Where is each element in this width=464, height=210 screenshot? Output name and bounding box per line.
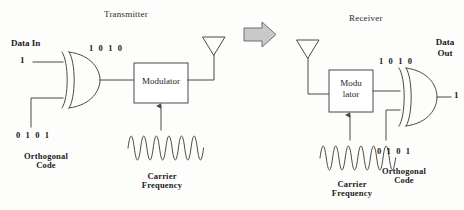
demodulator-label-line2: lator — [329, 89, 373, 99]
rx-antenna — [297, 40, 319, 58]
tx-carrier-waveform — [128, 136, 204, 160]
demodulator-label-line1: Modu — [329, 78, 373, 88]
tx-modulator-output-wire — [188, 55, 214, 80]
data-out-value: 1 — [454, 91, 459, 101]
tx-encoded-bits: 1 0 1 0 — [89, 44, 124, 53]
tx-carrier-label: Carrier Frequency — [120, 172, 204, 190]
rx-antenna-wire — [308, 58, 329, 94]
rx-recovered-bits: 1 0 1 0 — [379, 57, 414, 66]
tx-orthogonal-code-bits: 0 1 0 1 — [16, 131, 51, 140]
data-in-label: Data In — [11, 39, 40, 49]
rx-carrier-label: Carrier Frequency — [310, 180, 394, 198]
data-out-label-line1: Data — [426, 38, 464, 48]
tx-antenna — [203, 37, 225, 55]
tx-code-input-wire — [31, 98, 63, 127]
channel-arrow-icon — [244, 22, 276, 47]
rx-code-input-wire — [386, 110, 400, 140]
transmitter-title: Transmitter — [104, 10, 148, 20]
modulator-label: Modulator — [134, 76, 188, 86]
cdma-block-diagram: Transmitter Receiver Data In 1 1 0 1 0 M… — [0, 0, 464, 210]
tx-xor-gate — [62, 52, 100, 108]
rx-xor-gate — [399, 68, 437, 126]
data-out-label-line2: Out — [426, 49, 464, 59]
rx-orthogonal-code-bits: 0 1 0 1 — [377, 147, 412, 156]
receiver-title: Receiver — [349, 14, 383, 24]
tx-orthogonal-code-label: Orthogonal Code — [0, 152, 92, 170]
data-in-value: 1 — [20, 56, 25, 66]
